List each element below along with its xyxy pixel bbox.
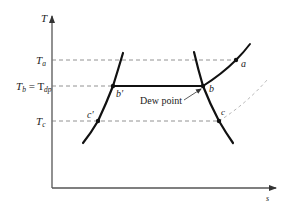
point-c-label: c xyxy=(221,107,225,117)
point-a xyxy=(234,58,238,62)
dew-point-arrow xyxy=(184,89,201,100)
ta-label: Ta xyxy=(36,54,46,68)
point-c-prime-label: c′ xyxy=(87,109,94,120)
ts-diagram: T s Ta Tb = Tdp Tc a b b′ c c′ Dew point xyxy=(0,0,287,211)
light-dashed-curve xyxy=(219,80,267,121)
tb-label: Tb = Tdp xyxy=(16,80,52,94)
point-b-prime-label: b′ xyxy=(116,88,124,99)
point-a-label: a xyxy=(241,58,246,69)
point-c-prime xyxy=(96,119,100,123)
tc-label: Tc xyxy=(36,115,46,129)
y-axis-label: T xyxy=(41,12,48,24)
dew-point-label: Dew point xyxy=(140,95,182,106)
point-b xyxy=(201,84,205,88)
saturated-vapor-curve xyxy=(194,52,233,143)
point-b-prime xyxy=(111,84,115,88)
point-b-label: b xyxy=(209,83,214,94)
x-axis-label: s xyxy=(266,194,269,203)
point-c xyxy=(217,119,221,123)
